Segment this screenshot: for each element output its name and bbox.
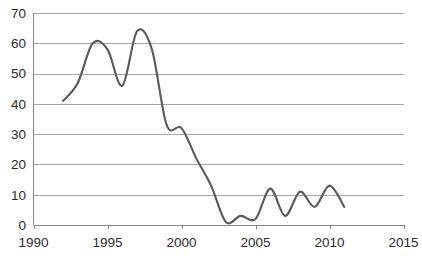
x-tick-label-1990: 1990 xyxy=(18,235,48,250)
y-tick-label-50: 50 xyxy=(11,66,26,81)
y-tick-label-40: 40 xyxy=(11,97,26,112)
x-axis-tick-labels: 199019952000200520102015 xyxy=(18,235,418,250)
data-series-line xyxy=(63,29,344,223)
y-tick-label-20: 20 xyxy=(11,157,26,172)
y-tick-label-70: 70 xyxy=(11,6,26,21)
x-tick-label-2000: 2000 xyxy=(166,235,196,250)
x-tick-label-1995: 1995 xyxy=(92,235,122,250)
x-tick-label-2005: 2005 xyxy=(240,235,270,250)
chart-container: 010203040506070 199019952000200520102015 xyxy=(0,0,422,265)
y-tick-label-30: 30 xyxy=(11,127,26,142)
x-tick-label-2015: 2015 xyxy=(388,235,418,250)
y-tick-label-60: 60 xyxy=(11,36,26,51)
y-tick-label-0: 0 xyxy=(18,218,26,233)
gridlines xyxy=(34,14,404,226)
y-tick-label-10: 10 xyxy=(11,188,26,203)
x-tick-label-2010: 2010 xyxy=(314,235,344,250)
y-axis-tick-labels: 010203040506070 xyxy=(11,6,26,233)
line-chart: 010203040506070 199019952000200520102015 xyxy=(0,0,422,265)
